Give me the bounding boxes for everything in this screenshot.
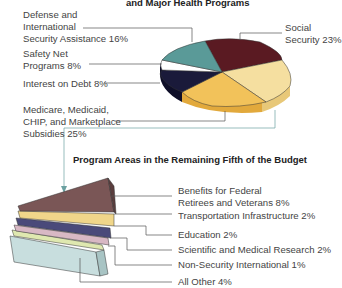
label-social-line1: Social (285, 22, 311, 34)
top-chart-title: and Major Health Programs (126, 0, 250, 8)
label-benefits-line1: Benefits for Federal (178, 185, 262, 197)
label-defense-line1: Defense and (23, 9, 77, 21)
label-defense-line3: Security Assistance 16% (23, 33, 128, 45)
label-all-other: All Other 4% (178, 276, 232, 288)
label-non-security: Non-Security International 1% (178, 259, 305, 271)
bottom-chart-title: Program Areas in the Remaining Fifth of … (73, 154, 307, 165)
label-interest: Interest on Debt 8% (23, 78, 108, 90)
label-social-line2: Security 23% (285, 34, 342, 46)
label-safety-line2: Programs 8% (23, 60, 81, 72)
label-medicare-line1: Medicare, Medicaid, (23, 104, 109, 116)
bottom-wedges (10, 178, 116, 276)
top-pie (160, 39, 291, 113)
label-education: Education 2% (178, 229, 237, 241)
label-safety-line1: Safety Net (23, 48, 68, 60)
label-defense-line2: International (23, 21, 76, 33)
label-medicare-line2: CHIP, and Marketplace (23, 116, 121, 128)
label-medicare-line3: Subsidies 25% (23, 128, 86, 140)
label-benefits-line2: Retirees and Veterans 8% (178, 197, 289, 209)
label-science: Scientific and Medical Research 2% (178, 244, 331, 256)
label-transportation: Transportation Infrastructure 2% (178, 210, 315, 222)
